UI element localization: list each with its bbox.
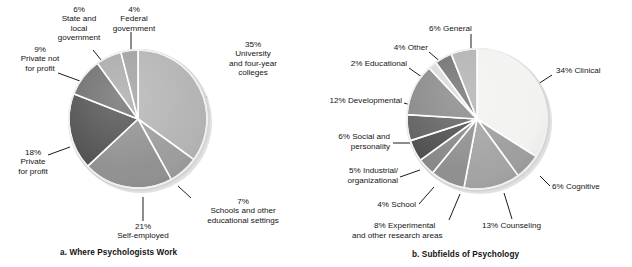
pie-b-svg	[400, 38, 556, 204]
panel-where-psychologists-work: 6% State and local government 4% Federal…	[0, 0, 316, 267]
label-clinical: 34% Clinical	[556, 66, 632, 75]
label-social-line2: personality	[312, 142, 390, 151]
label-university: 35% University and four-year colleges	[200, 40, 306, 78]
pie-a-svg	[66, 42, 212, 202]
label-industrial-line2: organizational	[318, 176, 398, 185]
label-developmental: 12% Developmental	[300, 96, 402, 105]
caption-panel-b: b. Subfields of Psychology	[412, 250, 519, 259]
two-pie-chart-figure: 6% State and local government 4% Federal…	[0, 0, 632, 267]
label-other: 4% Other	[358, 43, 428, 52]
label-cognitive: 6% Cognitive	[552, 182, 632, 191]
label-private-not-for-profit: 9% Private not for profit	[2, 45, 78, 73]
label-schools: 7% Schools and other educational setting…	[177, 197, 309, 225]
panel-subfields-of-psychology: 6% General 4% Other 2% Educational 12% D…	[316, 0, 632, 267]
label-counseling: 13% Counseling	[482, 221, 592, 230]
label-social-line1: 6% Social and	[312, 132, 390, 141]
label-experimental-line2: and other research areas	[352, 231, 502, 240]
pie-a	[66, 42, 212, 202]
pie-b	[400, 38, 556, 204]
label-educational: 2% Educational	[316, 59, 407, 68]
label-school: 4% School	[346, 200, 416, 209]
label-industrial-line1: 5% Industrial/	[318, 166, 398, 175]
label-private-for-profit: 18% Private for profit	[2, 148, 64, 176]
label-experimental-line1: 8% Experimental	[374, 221, 474, 230]
label-general: 6% General	[429, 24, 519, 33]
caption-panel-a: a. Where Psychologists Work	[60, 248, 177, 257]
label-federal: 4% Federal government	[103, 5, 165, 33]
